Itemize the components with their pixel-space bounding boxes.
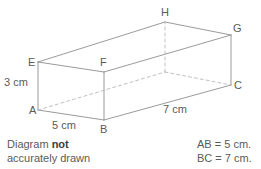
vertex-label-C: C <box>234 80 242 91</box>
dimension-label-height: 3 cm <box>4 77 28 88</box>
diagram-disclaimer: Diagram not accurately drawn <box>7 137 90 165</box>
given-ab: AB = 5 cm. <box>197 137 252 151</box>
given-measurements: AB = 5 cm. BC = 7 cm. <box>197 137 252 165</box>
vertex-label-H: H <box>161 7 169 18</box>
edge-H-G <box>165 22 231 35</box>
edge-G-F <box>104 35 231 72</box>
given-bc: BC = 7 cm. <box>197 151 252 165</box>
diagram-canvas: A B C E F G H 3 cm 5 cm 7 cm Diagram not… <box>0 0 261 169</box>
hidden-edge-A-D <box>38 72 165 110</box>
vertex-label-B: B <box>100 124 107 135</box>
hidden-edge-D-C <box>165 72 231 85</box>
edge-F-E <box>38 62 104 72</box>
disclaimer-prefix: Diagram <box>7 138 52 150</box>
vertex-label-A: A <box>29 105 36 116</box>
vertex-label-G: G <box>233 23 242 34</box>
disclaimer-emphasis: not <box>52 138 69 150</box>
disclaimer-line2: accurately drawn <box>7 151 90 165</box>
vertex-label-F: F <box>100 57 107 68</box>
dimension-label-depth: 7 cm <box>163 104 187 115</box>
vertex-label-E: E <box>28 57 35 68</box>
dimension-label-width: 5 cm <box>52 120 76 131</box>
